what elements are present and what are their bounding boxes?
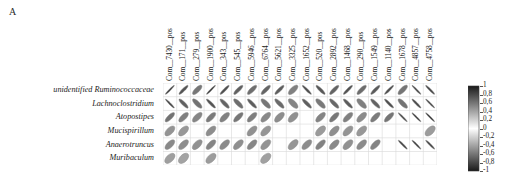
correlation-ellipse[interactable]	[342, 111, 355, 124]
correlation-ellipse[interactable]	[300, 138, 313, 151]
correlation-ellipse[interactable]	[384, 98, 395, 109]
correlation-ellipse[interactable]	[355, 124, 369, 138]
correlation-ellipse[interactable]	[274, 98, 286, 110]
correlation-ellipse[interactable]	[246, 111, 259, 124]
correlation-ellipse[interactable]	[259, 151, 273, 165]
correlation-ellipse[interactable]	[328, 124, 341, 137]
correlation-ellipse[interactable]	[314, 138, 327, 151]
correlation-ellipse[interactable]	[218, 138, 231, 151]
correlation-ellipse[interactable]	[177, 138, 190, 151]
correlation-ellipse[interactable]	[233, 84, 244, 95]
column-label: Com__1549__pos	[370, 28, 379, 81]
correlation-ellipse[interactable]	[232, 98, 244, 110]
correlation-ellipse[interactable]	[329, 84, 340, 95]
correlation-ellipse[interactable]	[314, 111, 327, 124]
correlation-ellipse[interactable]	[245, 124, 258, 137]
correlation-ellipse[interactable]	[219, 85, 230, 96]
correlation-ellipse[interactable]	[177, 124, 191, 138]
correlation-ellipse[interactable]	[302, 85, 313, 96]
correlation-ellipse[interactable]	[191, 97, 203, 109]
correlation-ellipse[interactable]	[342, 98, 353, 109]
correlation-ellipse[interactable]	[425, 99, 435, 109]
correlation-ellipse[interactable]	[370, 98, 381, 109]
correlation-ellipse[interactable]	[314, 124, 328, 138]
correlation-ellipse[interactable]	[205, 111, 217, 123]
correlation-ellipse[interactable]	[260, 84, 272, 96]
correlation-ellipse[interactable]	[369, 111, 381, 123]
correlation-ellipse[interactable]	[341, 138, 354, 151]
correlation-ellipse[interactable]	[163, 124, 176, 137]
correlation-ellipse[interactable]	[164, 111, 176, 123]
correlation-ellipse[interactable]	[301, 98, 312, 109]
correlation-ellipse[interactable]	[343, 84, 354, 95]
correlation-ellipse[interactable]	[355, 138, 368, 151]
correlation-ellipse[interactable]	[411, 140, 421, 150]
correlation-ellipse[interactable]	[259, 111, 272, 124]
column-label: Com__279__pos	[192, 32, 201, 81]
correlation-ellipse[interactable]	[163, 138, 176, 151]
correlation-ellipse[interactable]	[273, 111, 286, 124]
correlation-ellipse[interactable]	[191, 84, 203, 96]
correlation-ellipse[interactable]	[398, 140, 408, 150]
correlation-ellipse[interactable]	[177, 151, 191, 165]
correlation-ellipse[interactable]	[204, 151, 218, 165]
correlation-ellipse[interactable]	[260, 97, 272, 109]
correlation-ellipse[interactable]	[177, 111, 190, 124]
correlation-ellipse[interactable]	[274, 84, 285, 95]
correlation-ellipse[interactable]	[411, 112, 421, 122]
correlation-ellipse[interactable]	[425, 85, 435, 95]
correlation-ellipse[interactable]	[246, 84, 258, 96]
correlation-ellipse[interactable]	[165, 98, 175, 108]
correlation-ellipse[interactable]	[259, 124, 273, 138]
correlation-ellipse[interactable]	[287, 84, 300, 97]
correlation-ellipse[interactable]	[218, 111, 231, 124]
correlation-ellipse[interactable]	[398, 112, 408, 122]
correlation-ellipse[interactable]	[369, 138, 382, 151]
correlation-ellipse[interactable]	[232, 111, 244, 123]
correlation-ellipse[interactable]	[178, 98, 189, 109]
correlation-ellipse[interactable]	[219, 98, 231, 110]
correlation-ellipse[interactable]	[206, 98, 217, 109]
correlation-ellipse[interactable]	[370, 84, 381, 95]
correlation-ellipse[interactable]	[246, 138, 259, 151]
correlation-ellipse[interactable]	[287, 97, 300, 110]
correlation-ellipse[interactable]	[411, 98, 421, 108]
column-label: Com__7430__pos	[165, 28, 174, 81]
correlation-ellipse[interactable]	[232, 138, 245, 151]
correlation-ellipse[interactable]	[163, 151, 177, 165]
correlation-ellipse[interactable]	[384, 85, 395, 96]
correlation-ellipse[interactable]	[425, 140, 435, 150]
correlation-ellipse[interactable]	[191, 111, 204, 124]
correlation-ellipse[interactable]	[355, 111, 368, 124]
correlation-ellipse[interactable]	[178, 84, 189, 95]
colorbar-tick-label: 0,2	[483, 115, 492, 123]
column-label: Com__520__pos	[315, 32, 324, 81]
correlation-ellipse[interactable]	[286, 111, 299, 124]
correlation-ellipse[interactable]	[191, 138, 204, 151]
correlation-ellipse[interactable]	[411, 85, 421, 95]
correlation-ellipse[interactable]	[286, 138, 300, 152]
correlation-ellipse[interactable]	[315, 84, 326, 95]
correlation-ellipse[interactable]	[206, 85, 216, 95]
correlation-ellipse[interactable]	[328, 98, 340, 110]
correlation-ellipse[interactable]	[205, 138, 218, 151]
correlation-matrix[interactable]	[163, 83, 437, 165]
correlation-ellipse[interactable]	[204, 124, 217, 137]
correlation-ellipse[interactable]	[314, 97, 326, 109]
column-label: Com__5621__pos	[274, 28, 283, 81]
correlation-ellipse[interactable]	[246, 98, 257, 109]
correlation-ellipse[interactable]	[355, 97, 368, 110]
correlation-ellipse[interactable]	[423, 124, 437, 138]
correlation-ellipse[interactable]	[328, 138, 341, 151]
correlation-ellipse[interactable]	[341, 124, 354, 137]
correlation-ellipse[interactable]	[397, 84, 409, 96]
correlation-ellipse[interactable]	[425, 112, 435, 122]
correlation-ellipse[interactable]	[383, 111, 395, 123]
correlation-ellipse[interactable]	[259, 138, 272, 151]
panel-label: A	[9, 6, 17, 17]
row-label: Lachnoclostridium	[92, 99, 154, 108]
correlation-ellipse[interactable]	[328, 111, 340, 123]
correlation-ellipse[interactable]	[356, 84, 368, 96]
correlation-ellipse[interactable]	[165, 85, 175, 95]
correlation-ellipse[interactable]	[397, 97, 409, 109]
